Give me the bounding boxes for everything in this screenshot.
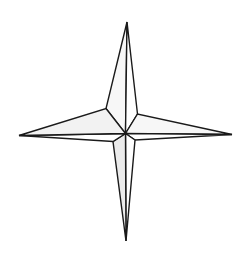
star-figure-canvas [0,0,248,260]
star-svg [0,0,248,260]
